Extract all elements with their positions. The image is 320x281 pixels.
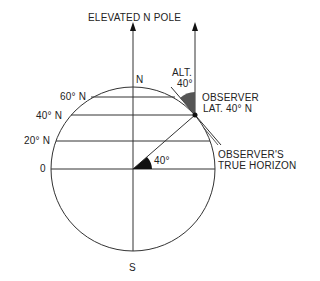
observer-label: OBSERVER [202,92,259,103]
south-label: S [129,262,136,273]
horizon-label-2: TRUE HORIZON [218,160,297,171]
lat-40-label: 40° N [36,110,62,121]
observer-arrow-icon [192,22,198,31]
alt-value-label: 40° [177,78,193,89]
latitude-angle-wedge [133,157,152,169]
equator-label: 0 [40,163,46,174]
lat-20-label: 20° N [24,135,50,146]
observer-dot [193,113,198,118]
lat-60-label: 60° N [60,91,86,102]
pole-arrow-icon [130,22,136,31]
alt-label: ALT. [172,67,192,78]
elevated-pole-title: ELEVATED N POLE [88,12,181,23]
observer-lat-label: LAT. 40° N [203,103,252,114]
horizon-label-1: OBSERVER'S [218,149,284,160]
north-label: N [136,74,143,85]
center-angle-label: 40° [154,155,170,166]
